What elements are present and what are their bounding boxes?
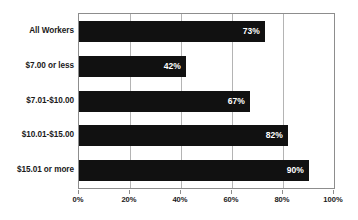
bar[interactable]: 73% — [79, 21, 265, 42]
tick-label: 20% — [121, 195, 136, 204]
category-label: All Workers — [2, 26, 74, 35]
bar-value-label: 82% — [266, 125, 283, 146]
tick-mark — [78, 190, 79, 194]
bar-chart: 73%42%67%82%90% All Workers$7.00 or less… — [0, 0, 358, 220]
tick-label: 0% — [73, 195, 84, 204]
category-label: $7.00 or less — [2, 61, 74, 70]
bar-value-label: 73% — [243, 21, 260, 42]
value-axis: 0%20%40%60%80%100% — [78, 190, 335, 214]
tick-mark — [129, 190, 130, 194]
tick-label: 40% — [172, 195, 187, 204]
bar-row: 73% — [79, 21, 334, 42]
category-label: $7.01-$10.00 — [2, 96, 74, 105]
bar-value-label: 42% — [164, 56, 181, 77]
category-axis: All Workers$7.00 or less$7.01-$10.00$10.… — [0, 13, 74, 189]
bar-row: 67% — [79, 91, 334, 112]
bar-row: 82% — [79, 125, 334, 146]
plot-area: 73%42%67%82%90% — [78, 13, 335, 189]
tick-mark — [231, 190, 232, 194]
bar-value-label: 67% — [228, 91, 245, 112]
bar-row: 42% — [79, 56, 334, 77]
bar[interactable]: 90% — [79, 160, 309, 181]
bar-row: 90% — [79, 160, 334, 181]
tick-mark — [180, 190, 181, 194]
category-label: $15.01 or more — [2, 165, 74, 174]
category-label: $10.01-$15.00 — [2, 130, 74, 139]
tick-label: 60% — [223, 195, 238, 204]
bar[interactable]: 67% — [79, 91, 250, 112]
tick-label: 80% — [274, 195, 289, 204]
bar[interactable]: 82% — [79, 125, 288, 146]
tick-mark — [282, 190, 283, 194]
tick-label: 100% — [323, 195, 342, 204]
bar-value-label: 90% — [287, 160, 304, 181]
bar[interactable]: 42% — [79, 56, 186, 77]
tick-mark — [333, 190, 334, 194]
